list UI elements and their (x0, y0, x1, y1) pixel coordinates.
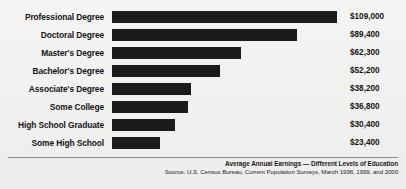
bar (112, 29, 297, 41)
bar (112, 65, 220, 77)
category-label: Bachelor's Degree (0, 62, 104, 80)
bar-row: Professional Degree $109,000 (0, 8, 406, 26)
value-label: $30,400 (350, 116, 380, 134)
value-label: $36,800 (350, 98, 380, 116)
category-label: Doctoral Degree (0, 26, 104, 44)
bar-row: Master's Degree $62,300 (0, 44, 406, 62)
bar (112, 119, 175, 131)
value-label: $109,000 (350, 8, 384, 26)
bar (112, 83, 191, 95)
bar-track (112, 44, 344, 62)
bar-row: High School Graduate $30,400 (0, 116, 406, 134)
bar-track (112, 8, 344, 26)
bar-rows: Professional Degree $109,000 Doctoral De… (0, 8, 406, 152)
earnings-bar-chart: Professional Degree $109,000 Doctoral De… (0, 0, 406, 189)
bar (112, 137, 160, 149)
category-label: Master's Degree (0, 44, 104, 62)
value-label: $52,200 (350, 62, 380, 80)
footer-divider (8, 157, 398, 158)
category-label: Associate's Degree (0, 80, 104, 98)
bar-track (112, 62, 344, 80)
value-label: $62,300 (350, 44, 380, 62)
bar (112, 11, 337, 23)
bar-row: Some College $36,800 (0, 98, 406, 116)
chart-source: Source: U.S. Census Bureau, Current Popu… (0, 168, 398, 176)
value-label: $89,400 (350, 26, 380, 44)
bar-track (112, 26, 344, 44)
bar-track (112, 116, 344, 134)
value-label: $23,400 (350, 134, 380, 152)
bar-track (112, 134, 344, 152)
category-label: High School Graduate (0, 116, 104, 134)
bar-row: Bachelor's Degree $52,200 (0, 62, 406, 80)
bar-row: Some High School $23,400 (0, 134, 406, 152)
chart-title: Average Annual Earnings — Different Leve… (0, 160, 398, 168)
category-label: Some High School (0, 134, 104, 152)
bar (112, 101, 188, 113)
category-label: Some College (0, 98, 104, 116)
bar-track (112, 98, 344, 116)
bar (112, 47, 241, 59)
bar-track (112, 80, 344, 98)
bar-row: Associate's Degree $38,200 (0, 80, 406, 98)
chart-footer: Average Annual Earnings — Different Leve… (0, 160, 398, 176)
bar-row: Doctoral Degree $89,400 (0, 26, 406, 44)
category-label: Professional Degree (0, 8, 104, 26)
value-label: $38,200 (350, 80, 380, 98)
